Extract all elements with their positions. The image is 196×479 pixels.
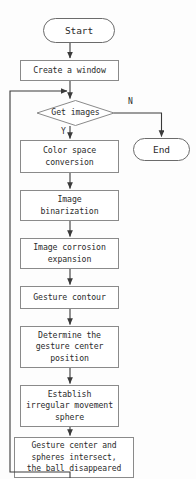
node-get-images-shape	[37, 101, 114, 126]
node-image-binarization-shape	[21, 191, 119, 221]
node-establish-sphere-shape	[21, 386, 119, 427]
node-gesture-contour-shape	[21, 287, 119, 309]
node-end-shape	[134, 139, 190, 161]
node-determine-gesture-center-shape	[21, 327, 119, 368]
node-image-corrosion-expansion-shape	[21, 239, 119, 269]
edge-get-images-no-to-end	[114, 113, 162, 137]
flowchart-graphics	[0, 0, 196, 479]
edge-label-no: N	[128, 97, 133, 106]
flowchart-canvas: Start Create a window Get images End Col…	[0, 0, 196, 479]
node-start-shape	[44, 19, 115, 43]
node-create-window-shape	[21, 61, 119, 81]
edge-label-yes: Y	[61, 127, 66, 136]
node-color-space-conversion-shape	[21, 141, 119, 173]
